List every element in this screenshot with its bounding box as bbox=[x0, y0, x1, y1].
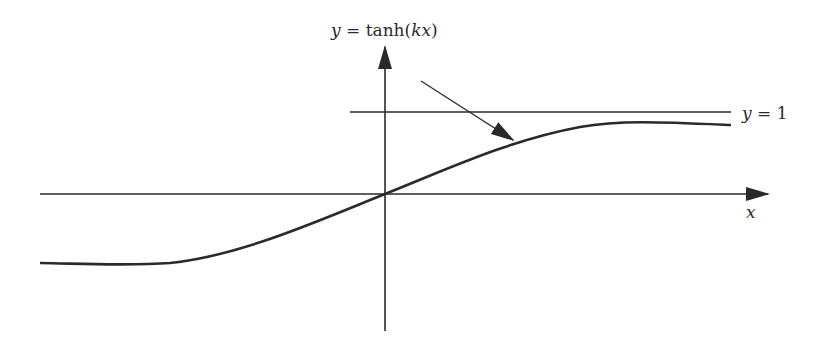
asymptote-label: y = 1 bbox=[742, 103, 787, 123]
label-pointer-arrow bbox=[421, 81, 513, 140]
function-label-eq: = tanh( bbox=[341, 20, 412, 40]
function-label: y = tanh(kx) bbox=[331, 20, 438, 40]
asymptote-label-var: y bbox=[742, 103, 752, 123]
asymptote-label-eq: = 1 bbox=[752, 103, 788, 123]
x-axis-label: x bbox=[746, 202, 756, 222]
tanh-diagram bbox=[0, 0, 824, 346]
function-label-var: y bbox=[331, 20, 341, 40]
function-label-close: ) bbox=[431, 20, 438, 40]
function-label-arg: kx bbox=[411, 20, 431, 40]
